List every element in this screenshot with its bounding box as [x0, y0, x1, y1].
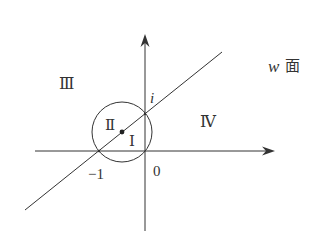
w-plane-diagram: Ⅲ Ⅱ Ⅰ Ⅳ i −1 0 w 面	[0, 0, 323, 231]
region-III-label: Ⅲ	[59, 75, 74, 92]
imaginary-axis	[141, 34, 150, 231]
region-I-label: Ⅰ	[129, 133, 135, 149]
imag-unit-label: i	[150, 90, 154, 106]
point-i	[144, 113, 146, 115]
plane-text-label: 面	[285, 58, 300, 74]
minus-one-label: −1	[88, 166, 104, 182]
real-axis	[35, 147, 275, 156]
origin-label: 0	[153, 163, 161, 179]
point-minus-one	[98, 150, 100, 152]
region-II-label: Ⅱ	[105, 117, 115, 133]
region-IV-label: Ⅳ	[200, 113, 217, 130]
plane-variable-label: w	[268, 57, 280, 76]
center-dot	[120, 130, 125, 135]
